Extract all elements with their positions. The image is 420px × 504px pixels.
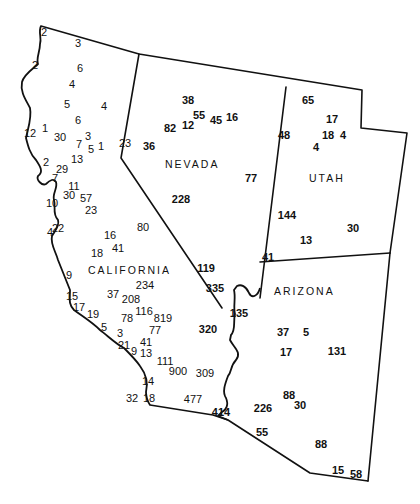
value-label-california: 9 (66, 269, 72, 281)
value-label-arizona: 30 (294, 399, 306, 411)
value-label-california: 900 (169, 365, 187, 377)
value-label-utah: 41 (262, 251, 274, 263)
value-label-california: 3 (85, 130, 91, 142)
value-label-california: 23 (85, 204, 97, 216)
value-label-california: 41 (112, 242, 124, 254)
value-label-utah: 30 (347, 222, 359, 234)
value-label-california: 6 (77, 62, 83, 74)
colorado-river-border (218, 285, 260, 420)
value-label-california: 477 (184, 393, 202, 405)
value-label-california: 19 (87, 308, 99, 320)
value-label-california: 5 (101, 321, 107, 333)
state-label-utah: UTAH (309, 172, 345, 184)
value-label-california: 30 (63, 189, 75, 201)
value-label-california: 9 (131, 345, 137, 357)
value-label-arizona: 131 (328, 345, 346, 357)
value-label-california: 30 (54, 131, 66, 143)
value-label-nevada: 36 (143, 140, 155, 152)
value-label-california: 1 (98, 140, 104, 152)
value-label-california: 234 (136, 279, 154, 291)
value-label-arizona: 135 (230, 307, 248, 319)
value-label-utah: 144 (278, 209, 297, 221)
value-label-california: 3 (75, 37, 81, 49)
value-label-arizona: 37 (277, 326, 289, 338)
value-label-arizona: 58 (350, 468, 362, 480)
value-label-california: 78 (121, 312, 133, 324)
value-label-california: 14 (142, 375, 154, 387)
value-label-nevada: 55 (193, 109, 205, 121)
value-label-california: 309 (196, 367, 214, 379)
value-label-california: 6 (75, 114, 81, 126)
value-label-california: 7 (76, 138, 82, 150)
value-label-utah: 48 (278, 129, 290, 141)
value-label-california: 21 (118, 339, 130, 351)
value-label-nevada: 82 (164, 122, 176, 134)
value-label-california: 16 (104, 229, 116, 241)
value-label-utah: 18 (322, 129, 334, 141)
value-label-california: 22 (52, 222, 64, 234)
value-label-arizona: 88 (315, 438, 327, 450)
value-label-california: 17 (73, 301, 85, 313)
utah-arizona-border (260, 253, 390, 262)
value-label-california: 819 (154, 312, 172, 324)
state-label-nevada: NEVADA (165, 158, 219, 170)
nevada-utah-border (260, 87, 286, 298)
value-label-nevada: 16 (226, 111, 238, 123)
value-label-arizona: 226 (254, 402, 272, 414)
value-label-california: 80 (137, 221, 149, 233)
state-label-california: CALIFORNIA (88, 264, 171, 276)
value-label-nevada: 38 (182, 94, 194, 106)
value-label-arizona: 5 (303, 326, 309, 338)
value-label-california: 13 (140, 347, 152, 359)
value-label-nevada: 320 (199, 323, 217, 335)
value-label-california: 13 (71, 153, 83, 165)
value-label-california: 2 (43, 156, 49, 168)
value-label-california: 7 (52, 172, 58, 184)
value-label-nevada: 335 (206, 282, 224, 294)
value-label-california: 37 (107, 288, 119, 300)
value-label-california: 116 (135, 305, 153, 317)
value-label-utah: 13 (300, 234, 312, 246)
value-label-california: 4 (69, 78, 75, 90)
value-label-california: 18 (91, 247, 103, 259)
value-label-nevada: 119 (197, 262, 215, 274)
arizona-east-border (368, 253, 390, 481)
value-label-arizona: 414 (212, 406, 231, 418)
value-label-california: 32 (126, 392, 138, 404)
value-label-california: 1 (42, 122, 48, 134)
value-label-utah: 17 (326, 113, 338, 125)
value-label-california: 18 (143, 392, 155, 404)
value-label-california: 23 (119, 137, 131, 149)
value-label-utah: 4 (313, 141, 320, 153)
value-label-arizona: 55 (256, 426, 268, 438)
value-label-california: 2 (32, 59, 38, 71)
value-label-utah: 65 (302, 94, 314, 106)
value-label-california: 4 (101, 100, 107, 112)
value-label-nevada: 228 (172, 193, 190, 205)
value-label-california: 10 (46, 197, 58, 209)
value-label-california: 77 (149, 324, 161, 336)
southwest-states-map: NEVADAUTAHCALIFORNIAARIZONA 232645461213… (0, 0, 420, 504)
value-label-nevada: 77 (245, 172, 257, 184)
value-label-nevada: 45 (210, 114, 222, 126)
value-label-arizona: 17 (280, 346, 292, 358)
value-label-california: 5 (88, 143, 94, 155)
value-label-california: 208 (122, 293, 140, 305)
state-labels: NEVADAUTAHCALIFORNIAARIZONA (88, 158, 345, 297)
value-label-california: 5 (64, 98, 70, 110)
value-label-california: 3 (117, 327, 123, 339)
northern-border (41, 26, 407, 253)
value-label-california: 12 (24, 127, 36, 139)
value-label-california: 2 (41, 26, 47, 38)
state-label-arizona: ARIZONA (274, 285, 335, 297)
value-label-arizona: 15 (332, 464, 344, 476)
value-label-utah: 4 (340, 129, 347, 141)
value-label-california: 57 (80, 192, 92, 204)
